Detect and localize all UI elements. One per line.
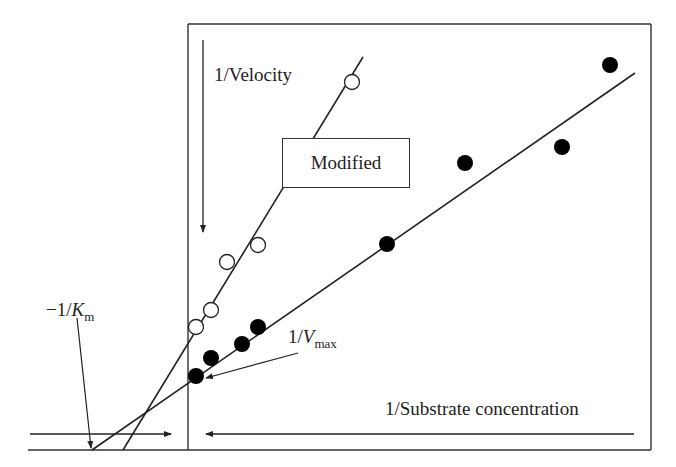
x-axis-label: 1/Substrate concentration — [385, 398, 579, 420]
normal-data-points — [188, 57, 618, 384]
vmax-prefix: 1/ — [288, 326, 303, 347]
km-subscript: m — [84, 309, 94, 324]
km-prefix: −1/ — [46, 299, 72, 320]
y-axis-label: 1/Velocity — [214, 64, 292, 86]
km-variable: K — [72, 299, 85, 320]
normal-fit-line — [92, 73, 635, 450]
modified-label-box: Modified — [282, 138, 410, 188]
plot-frame — [28, 24, 651, 450]
vmax-subscript: max — [314, 336, 336, 351]
vmax-variable: V — [303, 326, 315, 347]
vmax-pointer-arrow — [206, 353, 298, 378]
km-pointer-arrow — [77, 318, 91, 448]
km-label: −1/Km — [46, 299, 94, 321]
modified-fit-line — [123, 57, 363, 450]
vmax-label: 1/Vmax — [288, 326, 337, 348]
modified-data-points — [189, 75, 360, 335]
modified-label: Modified — [311, 152, 382, 174]
lineweaver-burk-plot — [0, 0, 676, 467]
